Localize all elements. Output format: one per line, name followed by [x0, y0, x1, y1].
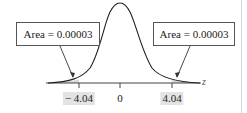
tick-label-zero: 0 [115, 92, 125, 105]
tick-label-pos: 4.04 [160, 92, 183, 105]
right-area-text: Area = 0.00003 [160, 28, 229, 40]
left-area-text: Area = 0.00003 [24, 28, 93, 40]
left-area-callout: Area = 0.00003 [16, 22, 100, 46]
tick-label-neg: − 4.04 [63, 92, 95, 105]
normal-curve-figure: Area = 0.00003 Area = 0.00003 − 4.04 0 4… [0, 0, 247, 113]
right-arrowhead [175, 72, 180, 78]
divider-line [241, 0, 242, 113]
left-arrowhead [70, 72, 75, 78]
axis-variable-label: z [202, 76, 206, 87]
right-area-callout: Area = 0.00003 [153, 22, 235, 46]
